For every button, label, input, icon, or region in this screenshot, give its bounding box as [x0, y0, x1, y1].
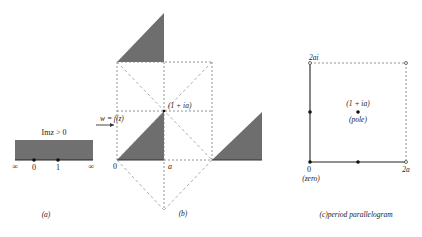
left-mid-point [308, 110, 312, 114]
dashed-diagonals [117, 62, 212, 210]
point-one [56, 158, 60, 162]
zero-point [308, 160, 312, 164]
caption-b: (b) [179, 209, 188, 218]
triangle-top [117, 13, 164, 62]
mapping-arrow: w = f(z) [96, 114, 124, 127]
vertex-label: (1 + ia) [168, 101, 192, 110]
arrow-head-icon [110, 123, 114, 127]
origin-label-c: 0 [307, 165, 311, 174]
corner-bottom-right-open [405, 161, 408, 164]
origin-label-b: 0 [113, 162, 117, 171]
panel-a: Imz > 0 ∞ 0 1 ∞ (a) [12, 128, 94, 219]
infinity-left-label: ∞ [12, 162, 18, 171]
corner-top-right-open [405, 62, 408, 65]
upper-half-plane-region [15, 140, 93, 160]
infinity-right-label: ∞ [88, 162, 94, 171]
mapping-label: w = f(z) [100, 114, 124, 123]
caption-c: (c)period parallelogram [319, 210, 393, 219]
point-zero [32, 158, 36, 162]
right-label-2a: 2a [402, 165, 410, 174]
pole-point [356, 110, 360, 114]
bottom-mid-point [356, 160, 360, 164]
conformal-map-figure: Imz > 0 ∞ 0 1 ∞ (a) w = f(z) [0, 0, 422, 237]
caption-a: (a) [42, 210, 51, 219]
panel-c: 2ai (1 + ia) (pole) 0 (zero) 2a (c)perio… [302, 53, 410, 219]
pole-coord-label: (1 + ia) [346, 99, 370, 108]
pole-label: (pole) [349, 115, 367, 124]
zero-label: 0 [32, 163, 36, 172]
dashed-grid [117, 62, 212, 210]
panel-b: (1 + ia) 0 a (b) [113, 13, 262, 218]
one-label: 1 [56, 163, 60, 172]
vertex-point [163, 110, 166, 113]
corner-top-left-open [309, 62, 312, 65]
top-label-2ai: 2ai [309, 53, 319, 62]
a-label: a [168, 162, 172, 171]
triangle-right [212, 112, 262, 160]
zero-label-c: (zero) [302, 174, 320, 183]
upper-half-plane-label: Imz > 0 [42, 128, 67, 137]
